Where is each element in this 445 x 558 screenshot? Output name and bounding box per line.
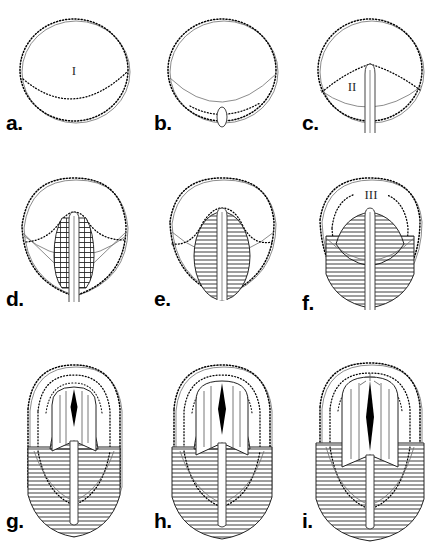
panel-label-g: g.	[6, 510, 24, 531]
panel-label-h: h.	[154, 510, 172, 531]
panel-c-drawing: II	[318, 19, 424, 133]
panel-h-drawing	[172, 365, 272, 539]
panel-d: d.	[0, 170, 148, 356]
panel-label-a: a.	[6, 112, 23, 133]
panel-label-i: i.	[302, 510, 313, 531]
panel-label-b: b.	[154, 112, 172, 133]
panel-i: i.	[296, 355, 444, 558]
stage-numeral: II	[348, 79, 357, 94]
panel-i-drawing	[316, 363, 424, 541]
panel-d-drawing	[22, 178, 128, 302]
stage-numeral: I	[72, 63, 76, 78]
figure-root: I a. b. II	[0, 0, 445, 558]
panel-a-drawing: I	[20, 19, 130, 123]
panel-b-drawing	[168, 19, 278, 127]
panel-c: II c.	[296, 0, 444, 186]
panel-g: g.	[0, 355, 148, 558]
archenteron-tube	[70, 441, 78, 525]
panel-label-f: f.	[302, 292, 314, 313]
panel-e-drawing	[170, 178, 276, 300]
blastopore-oval	[217, 107, 227, 127]
panel-a: I a.	[0, 0, 148, 186]
archenteron-tube	[218, 443, 226, 527]
panel-label-e: e.	[154, 288, 171, 309]
panel-g-drawing	[28, 365, 122, 537]
panel-f: III f.	[296, 170, 444, 356]
panel-label-c: c.	[302, 112, 319, 133]
panel-e: e.	[148, 170, 296, 356]
embryo-outline-dotted	[168, 19, 276, 121]
panel-f-drawing: III	[320, 178, 422, 310]
panel-label-d: d.	[6, 288, 24, 309]
archenteron-tube	[366, 455, 374, 529]
panel-h: h.	[148, 355, 296, 558]
panel-b: b.	[148, 0, 296, 186]
stage-numeral: III	[365, 187, 378, 202]
vegetal-arc-solid	[170, 74, 276, 102]
